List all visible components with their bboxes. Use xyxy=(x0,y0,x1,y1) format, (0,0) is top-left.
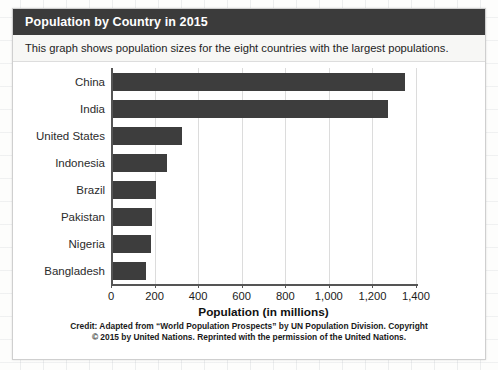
x-tick-mark xyxy=(198,284,199,288)
chart-card: Population by Country in 2015 This graph… xyxy=(12,8,486,360)
x-tick-label: 600 xyxy=(232,290,251,302)
x-tick-label: 0 xyxy=(108,290,114,302)
category-label: India xyxy=(80,103,105,115)
x-tick-mark xyxy=(111,284,112,288)
chart-description: This graph shows population sizes for th… xyxy=(25,42,449,54)
bar xyxy=(111,208,152,226)
card-title-bar: Population by Country in 2015 xyxy=(13,9,485,35)
bar xyxy=(111,100,388,118)
y-axis-line xyxy=(111,68,113,284)
category-label: Bangladesh xyxy=(44,265,105,277)
bar xyxy=(111,235,151,253)
plot-area xyxy=(111,68,416,284)
gridline xyxy=(416,68,417,284)
x-tick-mark xyxy=(372,284,373,288)
x-tick-mark xyxy=(155,284,156,288)
x-tick-mark xyxy=(329,284,330,288)
bar xyxy=(111,154,167,172)
category-label: Brazil xyxy=(76,184,105,196)
credit-block: Credit: Adapted from “World Population P… xyxy=(13,321,485,343)
x-axis-title: Population (in millions) xyxy=(111,305,416,319)
category-label: Nigeria xyxy=(69,238,105,250)
category-label: Indonesia xyxy=(55,157,105,169)
x-tick-mark xyxy=(416,284,417,288)
category-label: China xyxy=(75,76,105,88)
card-subtitle-bar: This graph shows population sizes for th… xyxy=(13,35,485,62)
category-label: United States xyxy=(36,130,105,142)
bar-chart: ChinaIndiaUnited StatesIndonesiaBrazilPa… xyxy=(13,62,485,318)
bar xyxy=(111,73,405,91)
x-tick-label: 400 xyxy=(189,290,208,302)
x-tick-label: 800 xyxy=(276,290,295,302)
bar xyxy=(111,262,146,280)
category-label: Pakistan xyxy=(61,211,105,223)
credit-line-1-text: Adapted from “World Population Prospects… xyxy=(97,321,427,331)
credit-kicker: Credit: xyxy=(70,321,97,331)
credit-line-2: © 2015 by United Nations. Reprinted with… xyxy=(31,332,467,343)
x-tick-label: 1,200 xyxy=(358,290,386,302)
x-tick-label: 1,400 xyxy=(402,290,430,302)
x-tick-label: 200 xyxy=(145,290,164,302)
bar xyxy=(111,127,182,145)
credit-line-1: Credit: Adapted from “World Population P… xyxy=(31,321,467,332)
x-tick-label: 1,000 xyxy=(315,290,343,302)
bar xyxy=(111,181,156,199)
page-title: Population by Country in 2015 xyxy=(25,15,208,29)
x-tick-mark xyxy=(242,284,243,288)
x-tick-mark xyxy=(285,284,286,288)
